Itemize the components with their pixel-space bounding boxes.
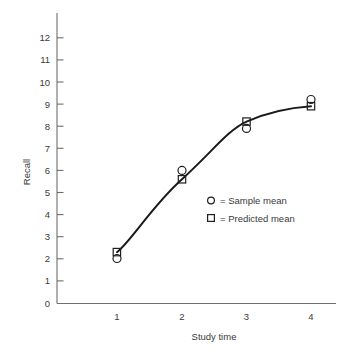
data-point-group-x1 (113, 248, 121, 262)
recall-study-time-chart: 12 11 10 9 8 7 6 5 4 3 2 1 0 1 2 3 4 Stu… (0, 0, 349, 354)
y-tick-label-1: 1 (45, 275, 50, 286)
predicted-mean-curve (117, 106, 311, 252)
x-tick-label-2: 2 (179, 311, 184, 322)
y-tick-label-9: 9 (45, 99, 50, 110)
predicted-mean-marker-x2 (178, 176, 185, 183)
legend-label-sample-mean: = Sample mean (220, 195, 287, 206)
y-tick-label-12: 12 (39, 32, 50, 43)
y-axis-title: Recall (21, 159, 32, 185)
y-tick-label-0: 0 (45, 298, 50, 309)
sample-mean-marker-x1 (113, 255, 121, 263)
y-tick-label-11: 11 (40, 54, 50, 65)
y-tick-label-2: 2 (45, 253, 50, 264)
y-tick-label-3: 3 (45, 231, 50, 242)
chart-svg: 12 11 10 9 8 7 6 5 4 3 2 1 0 1 2 3 4 Stu… (0, 0, 349, 354)
x-tick-label-4: 4 (308, 311, 313, 322)
data-point-group-x4 (307, 96, 315, 110)
y-tick-label-6: 6 (45, 165, 50, 176)
legend-label-predicted-mean: = Predicted mean (220, 213, 295, 224)
x-axis-title: Study time (192, 331, 237, 342)
legend-circle-icon (208, 197, 215, 204)
y-tick-label-8: 8 (45, 121, 50, 132)
y-tick-label-7: 7 (45, 143, 50, 154)
y-tick-label-4: 4 (45, 209, 50, 220)
y-tick-label-5: 5 (45, 187, 50, 198)
y-tick-label-10: 10 (39, 77, 50, 88)
x-tick-label-3: 3 (244, 311, 249, 322)
sample-mean-marker-x3 (243, 124, 251, 132)
data-point-group-x2 (178, 166, 186, 183)
sample-mean-marker-x2 (178, 166, 186, 174)
legend-square-icon (208, 215, 215, 222)
chart-legend: = Sample mean = Predicted mean (208, 195, 295, 224)
predicted-mean-marker-x4 (307, 103, 314, 110)
y-tick-marks (57, 38, 64, 281)
data-point-group-x3 (243, 118, 251, 132)
x-tick-label-1: 1 (114, 311, 119, 322)
